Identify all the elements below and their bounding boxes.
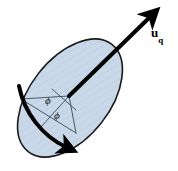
figure-canvas: uq ϕ ϕ	[0, 0, 178, 171]
vector-u-q-label-subscript: q	[158, 35, 163, 45]
angle-label-phi-lower: ϕ	[54, 110, 60, 121]
angle-label-phi-upper: ϕ	[45, 95, 51, 106]
vector-u-q-label: uq	[151, 26, 163, 43]
